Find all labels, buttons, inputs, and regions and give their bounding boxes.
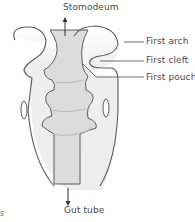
label-corner-fragment: s (0, 209, 4, 218)
label-gut-tube: Gut tube (64, 205, 104, 215)
label-first-arch: First arch (146, 36, 188, 46)
label-stomodeum: Stomodeum (63, 2, 119, 12)
label-first-pouch: First pouch (146, 72, 195, 82)
label-first-cleft: First cleft (146, 55, 188, 65)
pharyngeal-diagram (0, 0, 195, 222)
right-slit (103, 99, 109, 117)
left-slit (21, 101, 27, 119)
